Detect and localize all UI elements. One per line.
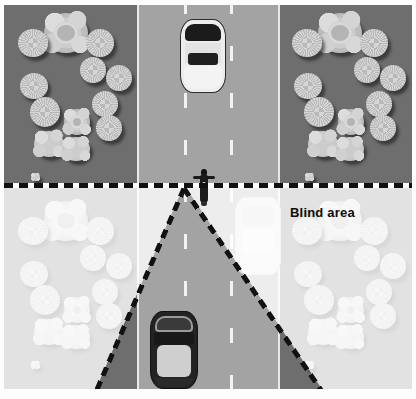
tree-canopy xyxy=(80,57,106,83)
tree-canopy xyxy=(370,115,396,141)
tree-canopy xyxy=(292,29,322,57)
tree-canopy xyxy=(338,109,364,135)
tree-canopy xyxy=(318,13,362,53)
dark-car xyxy=(150,311,198,389)
tree-canopy xyxy=(106,65,132,91)
white-car-trunk xyxy=(184,66,222,88)
tree-canopy xyxy=(96,115,122,141)
motorcycle-taillight xyxy=(201,201,206,207)
white-car-windshield xyxy=(185,24,221,41)
dark-car-windshield xyxy=(155,316,192,332)
tree-canopy xyxy=(366,91,392,117)
tree-canopy xyxy=(30,97,60,127)
tree-canopy xyxy=(380,65,406,91)
blind-area-figure: Blind area xyxy=(0,0,416,399)
tree-canopy xyxy=(62,137,90,161)
scene-canvas: Blind area xyxy=(4,5,412,389)
tree-canopy xyxy=(336,137,364,161)
white-car-rear-window xyxy=(188,53,217,65)
tree-canopy xyxy=(86,29,114,57)
dark-car-rear-window xyxy=(154,332,194,344)
tree-canopy xyxy=(44,13,88,53)
dark-car-roof xyxy=(157,345,192,376)
tree-canopy xyxy=(304,97,334,127)
motorcycle-body xyxy=(200,174,207,204)
white-car xyxy=(180,19,226,93)
horizontal-boundary-dashed-line xyxy=(4,183,412,188)
tree-canopy xyxy=(92,91,118,117)
tree-canopy xyxy=(20,73,48,99)
tree-canopy xyxy=(354,57,380,83)
tree-canopy xyxy=(305,173,314,181)
tree-canopy xyxy=(31,173,40,181)
tree-canopy xyxy=(294,73,322,99)
blind-area-label: Blind area xyxy=(290,205,355,220)
tree-canopy xyxy=(64,109,90,135)
tree-canopy xyxy=(360,29,388,57)
dark-car-bumper xyxy=(155,378,193,387)
tree-canopy xyxy=(18,29,48,57)
